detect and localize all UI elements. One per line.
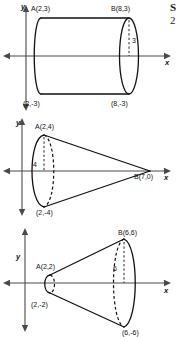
x-axis (3, 280, 171, 286)
cone-label-B: B(7,0) (134, 173, 153, 181)
frustum-label-B: B(6,6) (118, 229, 137, 237)
x-axis-arrow-left (3, 280, 10, 286)
cone-diagram: 4 A(2,4) B(7,0) (2,-4) y x (0, 113, 177, 217)
cone-radius-label: 4 (33, 161, 37, 168)
cylinder-label-D: (8,-3) (111, 100, 128, 108)
x-axis (3, 53, 171, 59)
x-axis-arrow-left (3, 53, 10, 59)
y-axis (19, 118, 25, 216)
cone-x-axis-label: x (163, 173, 169, 182)
cylinder-y-axis-label: y (20, 2, 26, 11)
frustum-canvas: 6 A(2,2) B(6,6) (2,-2) (6,-6) y x (0, 217, 177, 337)
frustum-x-axis-label: x (163, 286, 169, 295)
frustum-label-C: (2,-2) (31, 301, 48, 309)
cone-label-C: (2,-4) (36, 209, 53, 217)
cone-canvas: 4 A(2,4) B(7,0) (2,-4) y x (0, 113, 177, 217)
frustum-diagram: 6 A(2,2) B(6,6) (2,-2) (6,-6) y x (0, 217, 177, 337)
cylinder-label-A: A(2,3) (31, 5, 50, 13)
cylinder-label-B: B(8,3) (111, 5, 130, 13)
cone-y-axis-label: y (15, 118, 21, 127)
frustum-label-D: (6,-6) (122, 329, 139, 337)
y-axis-arrow-up (22, 228, 28, 235)
cone-label-A: A(2,4) (35, 123, 54, 131)
cylinder-label-C: (2,-3) (23, 100, 40, 108)
frustum-radius-label: 6 (113, 265, 117, 272)
diagram-sheet: 3 A(2,3) B(8,3) (2,-3) (8,-3) y x (0, 0, 177, 337)
y-axis-arrow-down (19, 209, 25, 216)
radius-dimension: 4 (33, 137, 44, 171)
cylinder-canvas: 3 A(2,3) B(8,3) (2,-3) (8,-3) y x (0, 0, 177, 113)
y-axis (23, 5, 29, 111)
frustum-label-A: A(2,2) (36, 263, 55, 271)
x-axis-arrow-left (3, 168, 10, 174)
cylinder-x-axis-label: x (164, 58, 170, 67)
y-axis (22, 228, 28, 332)
y-axis-arrow-down (22, 325, 28, 332)
radius-dimension: 6 (113, 242, 124, 283)
frustum-y-axis-label: y (15, 252, 21, 261)
cylinder-diagram: 3 A(2,3) B(8,3) (2,-3) (8,-3) y x (0, 0, 177, 113)
cylinder-radius-label: 3 (132, 37, 136, 44)
